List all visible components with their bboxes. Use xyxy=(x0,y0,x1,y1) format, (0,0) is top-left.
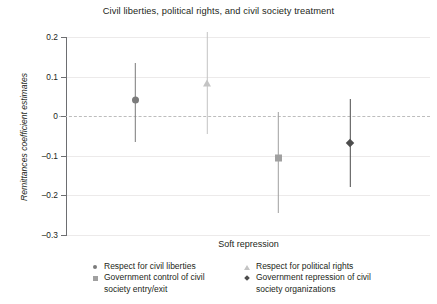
legend-marker-square-icon xyxy=(93,276,98,281)
y-axis-tick xyxy=(61,37,66,38)
y-axis-tick xyxy=(61,235,66,236)
legend-marker-diamond-icon xyxy=(244,276,250,282)
y-axis-tick xyxy=(61,116,66,117)
y-axis-tick-label: –0.3 xyxy=(14,231,58,239)
confidence-interval-bar xyxy=(278,112,279,213)
plot-area xyxy=(67,37,430,235)
chart-figure: Civil liberties, political rights, and c… xyxy=(0,0,437,304)
legend-item: Respect for political rights xyxy=(244,261,404,272)
chart-legend: Respect for civil libertiesGovernment co… xyxy=(92,261,422,303)
gridline xyxy=(67,235,430,236)
series-point-4 xyxy=(350,37,351,235)
legend-item: Respect for civil liberties xyxy=(92,261,252,272)
series-point-2 xyxy=(207,37,208,235)
chart-title: Civil liberties, political rights, and c… xyxy=(0,6,437,16)
legend-column-right: Respect for political rightsGovernment r… xyxy=(244,261,404,295)
zero-reference-line xyxy=(59,116,430,118)
estimate-marker-triangle xyxy=(203,79,211,86)
estimate-marker-square xyxy=(275,154,282,161)
gridline xyxy=(67,156,430,157)
estimate-marker-diamond xyxy=(346,138,354,146)
legend-label: Respect for political rights xyxy=(256,261,353,271)
legend-item: Government repression of civilsociety or… xyxy=(244,272,404,295)
y-axis-tick-label: 0.1 xyxy=(14,73,58,81)
gridline xyxy=(67,37,430,38)
legend-label-line2: society entry/exit xyxy=(104,284,252,295)
gridline xyxy=(67,77,430,78)
y-axis-tick xyxy=(61,195,66,196)
series-point-3 xyxy=(278,37,279,235)
y-axis-tick xyxy=(61,156,66,157)
series-point-1 xyxy=(135,37,136,235)
y-axis-tick-label: –0.2 xyxy=(14,191,58,199)
gridline xyxy=(67,195,430,196)
legend-label: Government control of civil xyxy=(104,272,205,282)
y-axis-tick-label: –0.1 xyxy=(14,152,58,160)
y-axis-tick-labels: 0.20.10–0.1–0.2–0.3 xyxy=(0,0,58,304)
legend-item: Government control of civilsociety entry… xyxy=(92,272,252,295)
legend-marker-circle-icon xyxy=(93,265,97,269)
y-axis-tick xyxy=(61,77,66,78)
y-axis-tick-label: 0.2 xyxy=(14,33,58,41)
legend-label-line2: society organizations xyxy=(256,284,404,295)
estimate-marker-circle xyxy=(132,97,139,104)
legend-column-left: Respect for civil libertiesGovernment co… xyxy=(92,261,252,295)
legend-label: Government repression of civil xyxy=(256,272,371,282)
legend-label: Respect for civil liberties xyxy=(104,261,196,271)
legend-marker-triangle-icon xyxy=(244,265,250,270)
x-axis-title: Soft repression xyxy=(67,239,430,249)
y-axis-tick-label: 0 xyxy=(14,112,58,120)
